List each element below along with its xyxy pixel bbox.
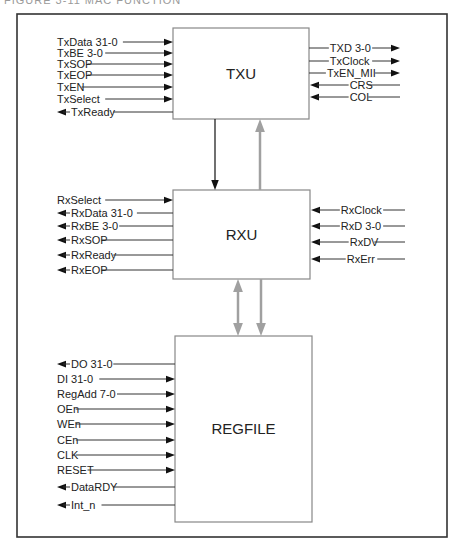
signal-regadd-7-0: RegAdd 7-0	[57, 388, 175, 400]
block-rxu: RXU	[173, 190, 310, 279]
signal-label: DI 31-0	[57, 373, 93, 385]
arrow-right-icon	[391, 45, 400, 52]
block-regfile-label: REGFILE	[211, 420, 275, 437]
signal-label: RxSelect	[57, 194, 101, 206]
arrow-down-icon	[211, 180, 219, 190]
arrow-down-icon	[233, 323, 243, 336]
mac-block-diagram: TXURXUREGFILE TxData 31-0TxBE 3-0TxSOPTx…	[0, 0, 459, 553]
signal-txen: TxEN	[57, 81, 173, 93]
signal-clk: CLK	[57, 449, 175, 461]
block-rxu-label: RXU	[226, 226, 258, 243]
signal-label: RxD 3-0	[341, 220, 381, 232]
block-txu: TXU	[173, 28, 309, 119]
signal-txd-3-0: TXD 3-0	[309, 42, 400, 54]
arrow-down-icon	[256, 323, 266, 336]
arrow-right-icon	[164, 50, 173, 57]
arrow-right-icon	[166, 391, 175, 398]
signal-rxd-3-0: RxD 3-0	[311, 220, 405, 232]
signal-rxselect: RxSelect	[57, 194, 173, 206]
arrow-right-icon	[166, 437, 175, 444]
signal-rxdata-31-0: RxData 31-0	[57, 207, 173, 219]
signal-txeop: TxEOP	[57, 69, 173, 81]
signal-rxbe-3-0: RxBE 3-0	[57, 220, 173, 232]
arrow-right-icon	[391, 58, 400, 65]
arrow-right-icon	[164, 197, 173, 204]
signal-rxdv: RxDV	[311, 236, 405, 248]
signal-do-31-0: DO 31-0	[57, 358, 175, 370]
signal-col: COL	[310, 91, 400, 103]
arrow-right-icon	[166, 421, 175, 428]
connection-rxu-to-txu	[255, 119, 265, 190]
signal-int-n: Int_n	[57, 499, 175, 511]
signal-wen: WEn	[57, 418, 175, 430]
signal-label: TxSelect	[57, 93, 100, 105]
arrow-right-icon	[164, 96, 173, 103]
signal-rxready: RxReady	[57, 249, 173, 261]
connection-rxu-to-regfile	[256, 279, 266, 336]
arrow-right-icon	[164, 61, 173, 68]
signal-rxsop: RxSOP	[57, 234, 173, 246]
signal-rxeop: RxEOP	[57, 264, 173, 276]
signal-label: RegAdd 7-0	[57, 388, 116, 400]
signal-txen-mii: TxEN_MII	[309, 67, 400, 79]
signal-oen: OEn	[57, 403, 175, 415]
block-regfile: REGFILE	[175, 336, 312, 522]
signal-label: RxData 31-0	[71, 207, 133, 219]
signal-crs: CRS	[310, 79, 400, 91]
signal-txclock: TxClock	[309, 55, 400, 67]
arrow-right-icon	[166, 406, 175, 413]
signal-di-31-0: DI 31-0	[57, 373, 175, 385]
arrow-right-icon	[164, 84, 173, 91]
signal-cen: CEn	[57, 434, 175, 446]
arrow-right-icon	[164, 72, 173, 79]
signal-txready: TxReady	[57, 106, 173, 118]
signal-label: TxClock	[330, 55, 370, 67]
signal-datardy: DataRDY	[57, 481, 175, 493]
signal-reset: RESET	[57, 464, 175, 476]
signal-label: TxReady	[71, 106, 116, 118]
signal-label: DO 31-0	[71, 358, 113, 370]
signal-label: DataRDY	[71, 481, 118, 493]
signal-label: RxBE 3-0	[71, 220, 118, 232]
arrow-up-icon	[233, 279, 243, 292]
arrow-right-icon	[166, 452, 175, 459]
signal-label: TXD 3-0	[330, 42, 371, 54]
arrow-right-icon	[166, 376, 175, 383]
signal-label: TxEN	[57, 81, 85, 93]
signal-rxerr: RxErr	[311, 253, 405, 265]
signal-txselect: TxSelect	[57, 93, 173, 105]
signal-rxclock: RxClock	[311, 204, 405, 216]
signal-label: TxEOP	[57, 69, 92, 81]
arrow-right-icon	[391, 70, 400, 77]
signal-label: Int_n	[71, 499, 95, 511]
signal-label: RxReady	[71, 249, 117, 261]
signal-label: TxEN_MII	[327, 67, 376, 79]
arrow-up-icon	[255, 119, 265, 132]
blocks-layer: TXURXUREGFILE	[173, 28, 312, 522]
connection-txu-to-rxu	[211, 119, 219, 190]
signal-label: RxClock	[341, 204, 382, 216]
connection-rxu-to-regfile	[233, 279, 243, 336]
arrow-right-icon	[166, 467, 175, 474]
signal-label: RxErr	[347, 253, 375, 265]
arrow-right-icon	[164, 39, 173, 46]
block-txu-label: TXU	[226, 65, 256, 82]
signal-label: CEn	[57, 434, 78, 446]
